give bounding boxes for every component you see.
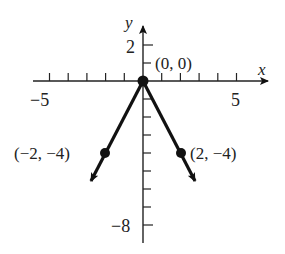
y-tick-label-neg8: −8	[111, 216, 130, 236]
left-point-label: (−2, −4)	[14, 144, 70, 163]
graph-figure: x y −5 5 2 −8 (0, 0) (−2, −4) (2, −4)	[0, 0, 285, 254]
right-point	[176, 148, 186, 158]
origin-label: (0, 0)	[155, 54, 192, 73]
origin-point	[138, 76, 149, 87]
left-branch	[91, 81, 143, 181]
x-tick-label-5: 5	[231, 90, 240, 110]
coordinate-plane: x y −5 5 2 −8 (0, 0) (−2, −4) (2, −4)	[0, 0, 285, 254]
left-point	[100, 148, 110, 158]
x-axis-label: x	[257, 60, 266, 79]
y-axis-label: y	[123, 13, 133, 32]
y-tick-label-2: 2	[126, 37, 135, 57]
y-ticks	[143, 45, 153, 225]
right-branch	[143, 81, 195, 181]
x-tick-label-neg5: −5	[30, 90, 49, 110]
right-point-label: (2, −4)	[190, 144, 236, 163]
